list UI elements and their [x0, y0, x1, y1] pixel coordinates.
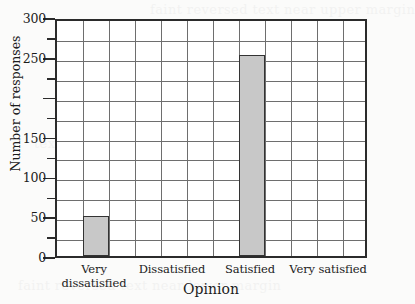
y-axis-tick-label: 300 — [0, 11, 46, 26]
y-axis-minor-tick — [47, 158, 55, 160]
y-axis-tick-label: 100 — [0, 170, 46, 185]
gridline-vertical — [187, 21, 188, 256]
gridline-horizontal — [57, 121, 365, 122]
gridline-horizontal — [57, 41, 365, 42]
y-axis-title: Number of responses — [8, 14, 23, 194]
gridline-horizontal — [57, 200, 365, 201]
gridline-vertical — [265, 21, 266, 256]
x-axis-title: Opinion — [55, 281, 367, 297]
y-axis-tick-label: 0 — [0, 250, 46, 265]
y-axis-tick-label: 150 — [0, 131, 46, 146]
gridline-horizontal — [57, 160, 365, 161]
bar-satisfied — [239, 55, 265, 256]
y-axis-tick-label: 250 — [0, 51, 46, 66]
x-axis-category-label: Dissatisfied — [133, 262, 211, 276]
y-axis-minor-tick — [47, 198, 55, 200]
gridline-vertical — [161, 21, 162, 256]
gridline-horizontal — [57, 180, 365, 181]
y-axis-minor-tick — [47, 78, 55, 80]
x-axis-category-label: Very satisfied — [289, 262, 367, 276]
y-axis-major-tick — [43, 98, 55, 100]
gridline-vertical — [213, 21, 214, 256]
gridline-horizontal — [57, 141, 365, 142]
y-axis-tick-label: 50 — [0, 210, 46, 225]
gridline-vertical — [317, 21, 318, 256]
x-axis-category-label: Satisfied — [211, 262, 289, 276]
gridline-horizontal — [57, 61, 365, 62]
y-axis-minor-tick — [47, 237, 55, 239]
y-axis-minor-tick — [47, 118, 55, 120]
plot-area — [55, 19, 367, 258]
gridline-vertical — [135, 21, 136, 256]
gridline-vertical — [109, 21, 110, 256]
gridline-vertical — [291, 21, 292, 256]
scan-bleed-artifact: faint reversed text near upper margin — [150, 2, 415, 17]
gridline-horizontal — [57, 101, 365, 102]
gridline-horizontal — [57, 81, 365, 82]
bar-very-dissatisfied — [83, 216, 109, 256]
y-axis-minor-tick — [47, 38, 55, 40]
gridline-vertical — [343, 21, 344, 256]
